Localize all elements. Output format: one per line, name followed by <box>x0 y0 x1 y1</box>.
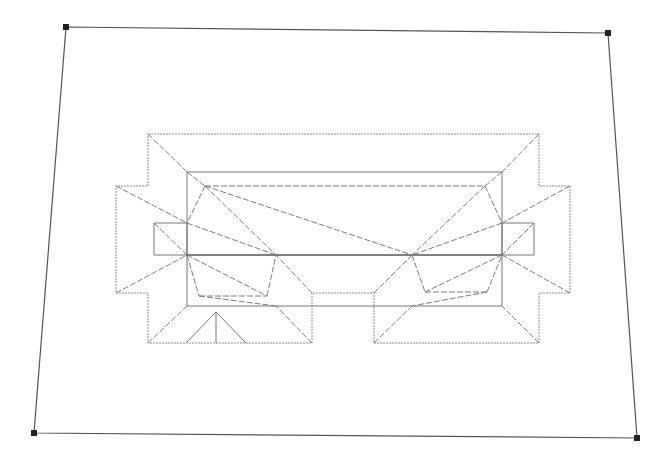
hip-line <box>116 255 187 293</box>
lot-corner-handle[interactable] <box>634 435 640 441</box>
hip-line <box>276 255 312 293</box>
roof-outline <box>116 134 570 343</box>
ridge-line <box>187 223 276 255</box>
lot-boundary-line <box>34 27 637 438</box>
right-bay <box>502 223 534 255</box>
gable-line <box>216 312 246 343</box>
ridge-line <box>412 186 485 255</box>
lot-corner-handle[interactable] <box>63 24 69 30</box>
ridge-line <box>205 186 412 255</box>
ridge-line <box>267 255 276 296</box>
lot-corner-markers[interactable] <box>31 24 640 441</box>
hip-line <box>148 306 187 343</box>
inner-wall-rect <box>187 172 502 306</box>
left-bay <box>154 223 187 255</box>
hip-line <box>502 186 570 223</box>
ridge-line <box>425 255 502 292</box>
lot-corner-handle[interactable] <box>605 30 611 36</box>
ridge-line <box>412 223 502 255</box>
ridge-line <box>187 186 205 223</box>
ridge-line <box>187 255 267 296</box>
ridge-line <box>485 172 502 186</box>
roof-plan-diagram <box>0 0 668 459</box>
ridge-lines <box>187 172 502 306</box>
hip-line <box>502 255 570 293</box>
ridge-line <box>412 292 487 306</box>
hip-line <box>502 134 539 172</box>
ridge-line <box>199 296 276 306</box>
ridge-line <box>485 186 502 223</box>
lot-boundary <box>34 27 637 438</box>
hip-line <box>276 306 312 343</box>
hip-line <box>116 186 187 223</box>
ridge-line <box>487 255 502 292</box>
hip-line <box>374 306 412 343</box>
ridge-line <box>412 255 425 292</box>
ridge-line <box>187 172 205 186</box>
hip-line <box>502 223 534 255</box>
hip-line <box>154 223 187 255</box>
hip-line <box>148 134 187 172</box>
hip-line <box>374 255 412 293</box>
lot-corner-handle[interactable] <box>31 430 37 436</box>
gable-line <box>186 312 216 343</box>
ridge-line <box>205 186 276 255</box>
hip-line <box>502 306 539 343</box>
ridge-line <box>187 255 199 296</box>
